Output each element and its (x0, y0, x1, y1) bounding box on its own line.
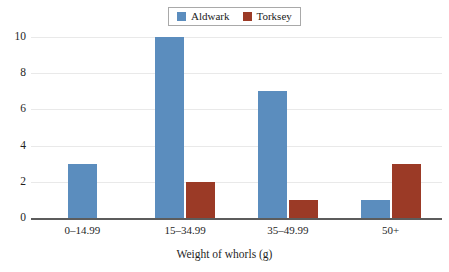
bar-aldwark-1[interactable] (155, 37, 184, 218)
y-axis-tick-label: 6 (2, 103, 26, 115)
plot-area (31, 37, 442, 218)
legend-label-aldwark: Aldwark (191, 11, 230, 22)
legend-item-torksey[interactable]: Torksey (243, 11, 292, 22)
x-axis-line (31, 218, 442, 220)
bar-torksey-1[interactable] (186, 182, 215, 218)
x-axis-tick-label: 0–14.99 (31, 224, 134, 236)
gridline (31, 37, 442, 38)
x-axis-tick-label: 15–34.99 (134, 224, 237, 236)
y-axis-tick-label: 2 (2, 176, 26, 188)
y-axis-tick-label: 8 (2, 67, 26, 79)
y-axis-tick-label: 10 (2, 31, 26, 43)
legend-swatch-torksey (243, 12, 252, 21)
bar-aldwark-3[interactable] (361, 200, 390, 218)
legend-label-torksey: Torksey (257, 11, 292, 22)
gridline (31, 146, 442, 147)
bar-aldwark-2[interactable] (258, 91, 287, 218)
bar-aldwark-0[interactable] (68, 164, 97, 218)
y-axis-tick-label: 4 (2, 140, 26, 152)
bar-torksey-2[interactable] (289, 200, 318, 218)
y-axis-tick-label: 0 (2, 212, 26, 224)
chart-legend: Aldwark Torksey (168, 7, 301, 26)
bar-chart: Aldwark Torksey 0246810 0–14.9915–34.993… (0, 0, 449, 272)
x-axis-tick-label: 50+ (339, 224, 442, 236)
gridline (31, 109, 442, 110)
legend-swatch-aldwark (177, 12, 186, 21)
bar-torksey-3[interactable] (392, 164, 421, 218)
legend-item-aldwark[interactable]: Aldwark (177, 11, 230, 22)
x-axis-title: Weight of whorls (g) (0, 248, 449, 261)
x-axis-tick-label: 35–49.99 (237, 224, 340, 236)
gridline (31, 73, 442, 74)
